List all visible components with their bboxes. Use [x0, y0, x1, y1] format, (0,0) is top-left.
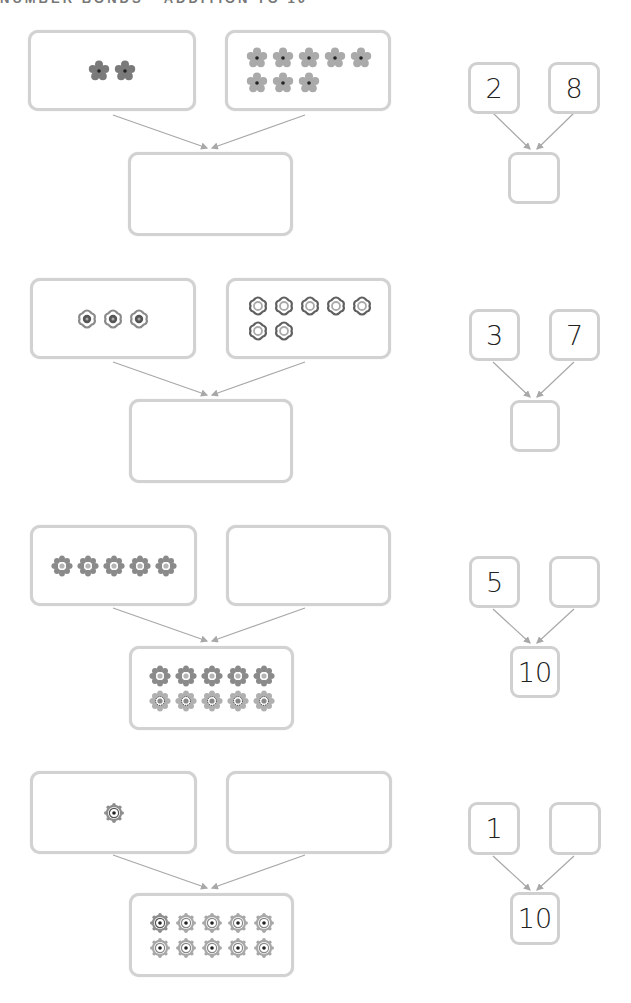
flower-icon	[272, 72, 294, 94]
bond-whole: 10	[510, 892, 560, 945]
flower-icon	[149, 665, 171, 687]
bond-part-b-answer[interactable]	[549, 802, 601, 855]
flower-icon	[227, 912, 249, 934]
flower-icon	[351, 295, 373, 317]
flower-icon	[149, 937, 171, 959]
flower-icon	[253, 690, 275, 712]
flower-icon	[247, 320, 269, 342]
flower-icon	[246, 47, 268, 69]
flower-icon	[227, 937, 249, 959]
flower-group-left	[33, 528, 194, 603]
flower-icon	[227, 690, 249, 712]
bond-part-a: 3	[469, 309, 520, 361]
bond-whole-answer[interactable]	[508, 152, 560, 204]
flower-icon	[103, 802, 125, 824]
flower-group-total	[132, 649, 291, 727]
total-picture-box[interactable]	[129, 399, 293, 483]
flower-icon	[175, 937, 197, 959]
flower-icon	[88, 60, 110, 82]
flower-icon	[201, 937, 223, 959]
total-picture-box	[129, 646, 294, 730]
flower-icon	[324, 47, 346, 69]
flower-icon	[77, 555, 99, 577]
flower-icon	[76, 308, 98, 330]
flower-group-left	[33, 774, 194, 851]
flower-group-left	[31, 33, 193, 108]
flower-icon	[201, 690, 223, 712]
flower-icon	[253, 665, 275, 687]
bond-part-a: 5	[469, 556, 520, 608]
flower-icon	[298, 72, 320, 94]
flower-icon	[325, 295, 347, 317]
left-picture-box	[30, 771, 197, 854]
right-picture-box	[225, 30, 391, 111]
flower-icon	[128, 308, 150, 330]
flower-icon	[273, 320, 295, 342]
flower-icon	[253, 912, 275, 934]
flower-icon	[51, 555, 73, 577]
bond-part-b: 8	[548, 62, 600, 114]
flower-icon	[201, 665, 223, 687]
bond-part-a: 2	[468, 62, 520, 114]
flower-icon	[175, 912, 197, 934]
flower-icon	[247, 295, 269, 317]
flower-icon	[299, 295, 321, 317]
bond-part-b-answer[interactable]	[549, 556, 600, 608]
flower-icon	[253, 937, 275, 959]
flower-icon	[272, 47, 294, 69]
flower-icon	[227, 665, 249, 687]
bond-whole-answer[interactable]	[510, 400, 560, 452]
right-picture-box[interactable]	[226, 525, 391, 606]
left-picture-box	[30, 278, 196, 359]
flower-icon	[129, 555, 151, 577]
flower-icon	[155, 555, 177, 577]
flower-group-total	[132, 896, 291, 974]
flower-icon	[201, 912, 223, 934]
bond-whole: 10	[510, 646, 560, 698]
flower-icon	[149, 912, 171, 934]
flower-group-right	[229, 281, 388, 356]
right-picture-box	[226, 278, 391, 359]
total-picture-box	[129, 893, 294, 977]
flower-icon	[149, 690, 171, 712]
flower-icon	[298, 47, 320, 69]
flower-icon	[273, 295, 295, 317]
flower-icon	[350, 47, 372, 69]
flower-group-left	[33, 281, 193, 356]
flower-icon	[103, 555, 125, 577]
flower-icon	[175, 665, 197, 687]
flower-group-right	[228, 33, 388, 108]
left-picture-box	[28, 30, 196, 111]
right-picture-box[interactable]	[226, 771, 392, 854]
flower-icon	[114, 60, 136, 82]
bond-part-a: 1	[468, 802, 520, 855]
flower-icon	[175, 690, 197, 712]
flower-icon	[246, 72, 268, 94]
flower-icon	[102, 308, 124, 330]
total-picture-box[interactable]	[128, 152, 293, 236]
left-picture-box	[30, 525, 197, 606]
bond-part-b: 7	[549, 309, 600, 361]
